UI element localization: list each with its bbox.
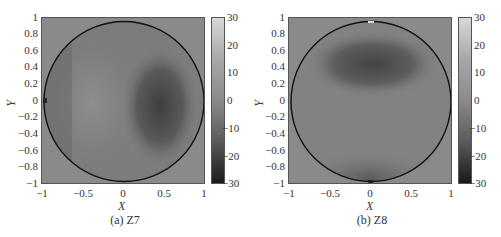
xtick: 1: [436, 188, 466, 199]
colorbar-tick: 20: [474, 40, 485, 51]
colorbar-tick: 20: [227, 40, 238, 51]
xtick: −0.5: [315, 188, 345, 199]
y-axis-label: Y: [4, 100, 19, 107]
ytick: 0.6: [255, 45, 285, 56]
colorbar-tick: 0: [474, 95, 480, 106]
xtick: 1: [189, 188, 219, 199]
ytick: −0.8: [255, 161, 285, 172]
caption-z8: (b) Z8: [247, 213, 497, 228]
colorbar-tick: −20: [222, 151, 239, 162]
xtick: 0: [355, 188, 385, 199]
ytick: 0.2: [8, 78, 38, 89]
xtick: 0.5: [396, 188, 426, 199]
x-axis-label: X: [366, 199, 373, 214]
x-axis-label: X: [118, 199, 125, 214]
xtick: 0.5: [149, 188, 179, 199]
ytick: 0.4: [255, 61, 285, 72]
colorbar-tick: −20: [469, 151, 486, 162]
colorbar-tick: 10: [227, 67, 238, 78]
ytick: 0.4: [8, 61, 38, 72]
colorbar-tick: −30: [222, 178, 239, 189]
ytick: 0.6: [8, 45, 38, 56]
ytick: 0.8: [255, 28, 285, 39]
ytick: 0.2: [255, 78, 285, 89]
colorbar-tick: −10: [222, 123, 239, 134]
ytick: 0.8: [8, 28, 38, 39]
colorbar-tick: −30: [469, 178, 486, 189]
panel-z7: 1 0.8 0.6 0.4 0.2 0 −0.2 −0.4 −0.6 −0.8 …: [0, 0, 250, 237]
caption-z7: (a) Z7: [0, 213, 250, 228]
y-axis-label: Y: [252, 100, 267, 107]
ytick: −0.4: [255, 128, 285, 139]
colorbar-tick: 10: [474, 67, 485, 78]
ytick: 1: [8, 12, 38, 23]
xtick: 0: [108, 188, 138, 199]
xtick: −1: [27, 188, 57, 199]
ytick: −0.2: [255, 111, 285, 122]
ytick: −0.8: [8, 161, 38, 172]
ytick: −0.6: [8, 145, 38, 156]
ytick: −0.4: [8, 128, 38, 139]
heatmap-z7: [41, 17, 205, 184]
colorbar-tick: 30: [227, 12, 238, 23]
ytick: −0.6: [255, 145, 285, 156]
colorbar-tick: 0: [227, 95, 233, 106]
ytick: 1: [255, 12, 285, 23]
colorbar-tick: −10: [469, 123, 486, 134]
colorbar-tick: 30: [474, 12, 485, 23]
panel-z8: 1 0.8 0.6 0.4 0.2 0 −0.2 −0.4 −0.6 −0.8 …: [250, 0, 500, 237]
xtick: −0.5: [68, 188, 98, 199]
ytick: −0.2: [8, 111, 38, 122]
xtick: −1: [274, 188, 304, 199]
heatmap-z8: [288, 17, 452, 184]
